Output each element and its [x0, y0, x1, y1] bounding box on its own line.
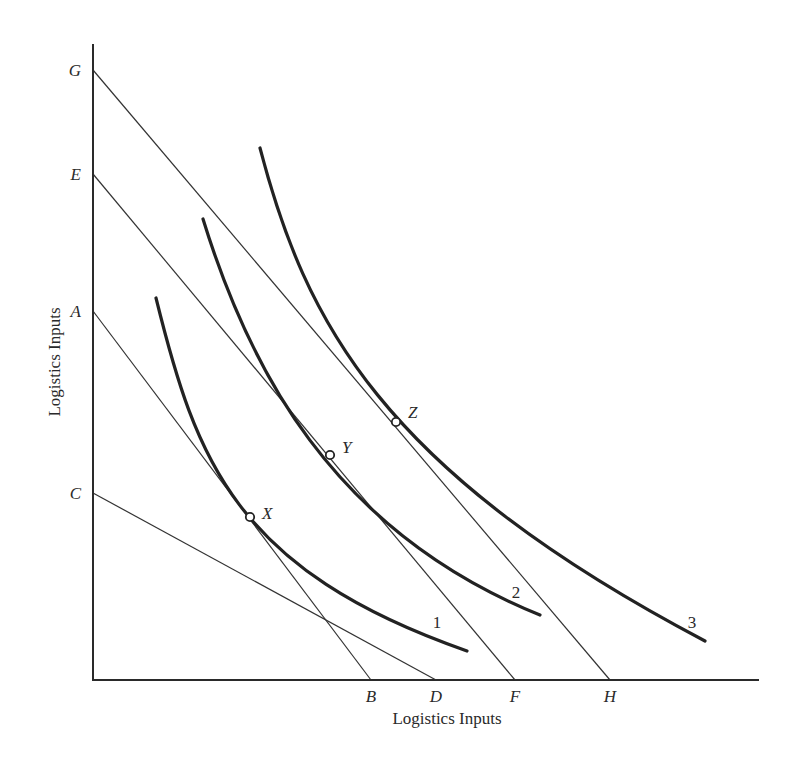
- isoquant-label-3: 3: [688, 613, 697, 632]
- x-intercept-label-h: H: [603, 687, 618, 706]
- y-intercept-labels: GEAC: [69, 61, 82, 503]
- isoquant-curve-1: [156, 298, 467, 651]
- isoquant-curve-3: [260, 148, 705, 641]
- x-intercept-label-b: B: [366, 687, 377, 706]
- tangency-point-y: [326, 451, 334, 459]
- x-intercept-labels: BDFH: [366, 687, 618, 706]
- isocost-line-ef: [93, 174, 515, 680]
- y-axis-title: Logistics Inputs: [45, 307, 64, 416]
- isoquant-label-1: 1: [433, 613, 442, 632]
- isocost-line-gh: [93, 70, 610, 680]
- tangency-point-z: [392, 418, 400, 426]
- tangency-label-x: X: [261, 504, 273, 523]
- tangency-label-z: Z: [408, 403, 418, 422]
- y-intercept-label-a: A: [70, 302, 82, 321]
- tangency-point-x: [246, 513, 254, 521]
- isoquant-label-2: 2: [512, 583, 521, 602]
- isoquant-diagram: 123 GEAC BDFH XYZ Logistics Inputs Logis…: [0, 0, 801, 762]
- isoquant-curve-2: [203, 219, 540, 615]
- axis-lines: [93, 44, 759, 680]
- diagram-canvas: 123 GEAC BDFH XYZ Logistics Inputs Logis…: [0, 0, 801, 762]
- tangency-points: XYZ: [246, 403, 418, 523]
- tangency-label-y: Y: [342, 438, 353, 457]
- y-intercept-label-c: C: [70, 484, 82, 503]
- x-intercept-label-f: F: [509, 687, 521, 706]
- isocost-lines: [93, 70, 610, 680]
- axes: [93, 44, 759, 680]
- x-intercept-label-d: D: [429, 687, 443, 706]
- x-axis-title: Logistics Inputs: [392, 709, 501, 728]
- y-intercept-label-e: E: [70, 165, 82, 184]
- y-intercept-label-g: G: [69, 61, 81, 80]
- isoquant-curves: 123: [156, 148, 705, 651]
